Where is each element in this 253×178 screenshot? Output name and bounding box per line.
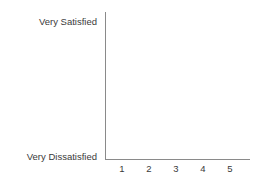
y-axis-label-very-satisfied: Very Satisfied: [0, 16, 97, 27]
clipped-title-text: [6, 0, 206, 3]
y-axis-line: [105, 12, 106, 160]
x-tick-label-1: 1: [115, 163, 129, 174]
y-axis-label-very-dissatisfied: Very Dissatisfied: [0, 151, 97, 162]
x-tick-label-2: 2: [142, 163, 156, 174]
x-tick-label-4: 4: [196, 163, 210, 174]
x-tick-label-5: 5: [223, 163, 237, 174]
x-axis-line: [105, 159, 250, 160]
chart-screenshot: Very Satisfied Very Dissatisfied 1 2 3 4…: [0, 0, 253, 178]
plot-area: [106, 12, 250, 159]
x-tick-label-3: 3: [169, 163, 183, 174]
